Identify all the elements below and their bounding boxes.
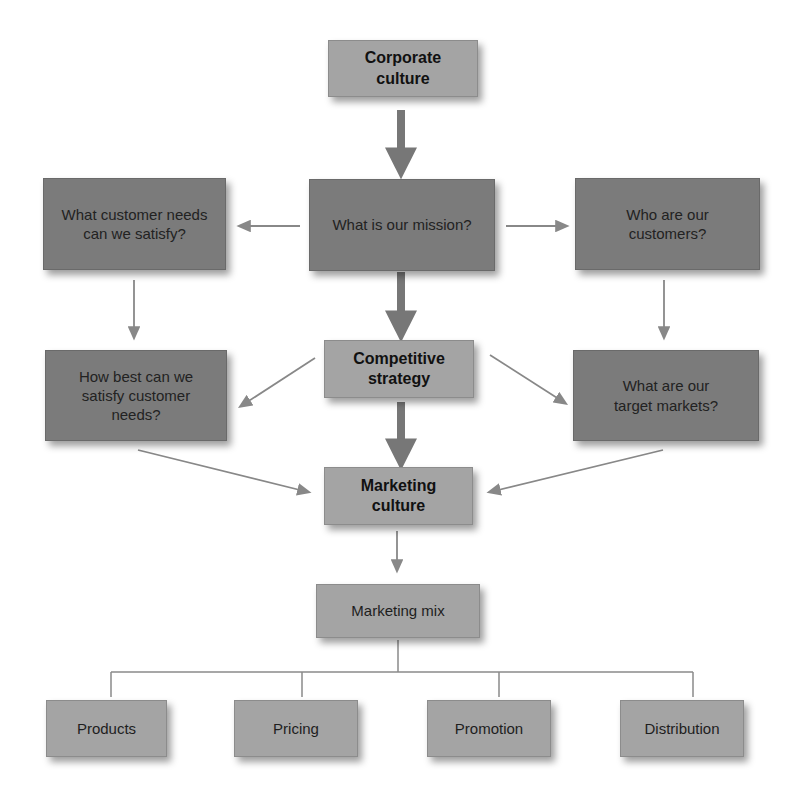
node-promotion: Promotion: [427, 700, 551, 757]
node-distribution: Distribution: [620, 700, 744, 757]
arrow-strategy-to-satisfy: [241, 358, 315, 406]
node-marketing-mix: Marketing mix: [316, 584, 480, 638]
marketing-strategy-diagram: Corporate culture What is our mission? W…: [0, 0, 805, 795]
node-label: What are our target markets?: [612, 376, 720, 414]
node-target-markets: What are our target markets?: [573, 350, 759, 441]
node-label: Products: [77, 719, 136, 738]
node-label: What customer needs can we satisfy?: [58, 205, 211, 243]
node-label: Distribution: [644, 719, 719, 738]
node-satisfy-needs: How best can we satisfy customer needs?: [45, 350, 227, 441]
node-label: Promotion: [455, 719, 523, 738]
arrow-strategy-to-target-markets: [490, 355, 565, 403]
node-label: Corporate culture: [349, 48, 457, 89]
arrow-satisfy-to-marketing-culture: [138, 450, 308, 492]
node-label: Pricing: [273, 719, 319, 738]
node-products: Products: [46, 700, 167, 757]
node-marketing-culture: Marketing culture: [324, 467, 473, 525]
node-label: Who are our customers?: [614, 205, 721, 243]
node-customer-needs: What customer needs can we satisfy?: [43, 178, 226, 270]
node-mission: What is our mission?: [309, 179, 495, 271]
node-label: Marketing culture: [345, 476, 452, 517]
node-label: Competitive strategy: [335, 349, 463, 390]
node-pricing: Pricing: [234, 700, 358, 757]
node-label: What is our mission?: [332, 215, 471, 234]
mix-bracket: [111, 640, 693, 697]
node-corporate-culture: Corporate culture: [328, 40, 478, 97]
node-label: How best can we satisfy customer needs?: [76, 367, 196, 425]
node-customers: Who are our customers?: [575, 178, 760, 270]
arrow-target-to-marketing-culture: [490, 450, 663, 492]
node-competitive-strategy: Competitive strategy: [324, 340, 474, 398]
node-label: Marketing mix: [351, 601, 444, 620]
